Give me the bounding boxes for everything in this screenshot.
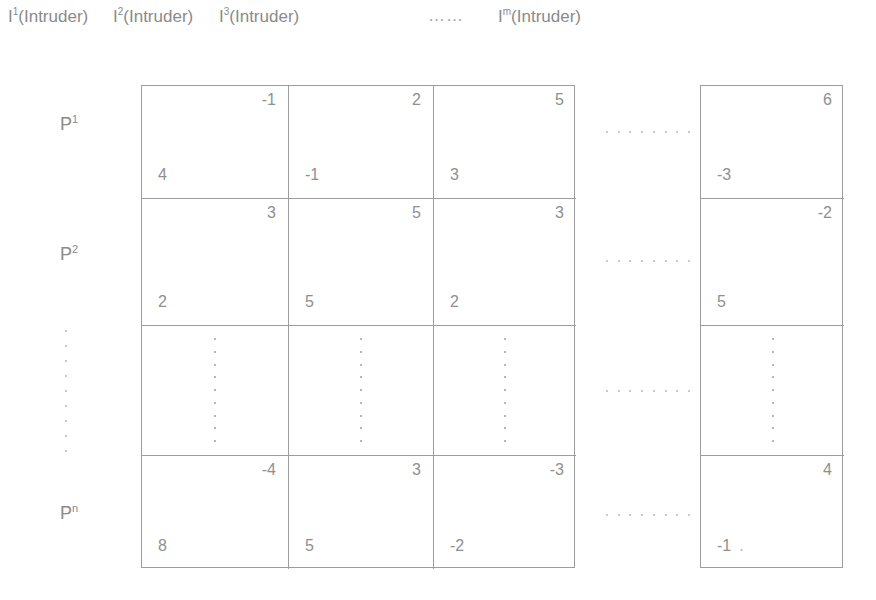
cell-value-bottom-left: 5 (717, 293, 726, 311)
row-1-horizontal-ellipsis (606, 130, 690, 134)
cell-value-top-right: 3 (555, 204, 564, 222)
dot (772, 351, 774, 353)
dot (214, 415, 216, 417)
row-label-superscript-1: 1 (72, 113, 78, 125)
cell-value-bottom-left: -2 (450, 537, 464, 555)
dot (688, 514, 690, 516)
dot (653, 131, 655, 133)
cell-value-top-right: 4 (823, 461, 832, 479)
dot (65, 375, 67, 377)
dot (772, 427, 774, 429)
dot (65, 405, 67, 407)
cell-value-top-right: 5 (412, 204, 421, 222)
column-header-label-2: (Intruder) (123, 7, 193, 26)
column-header-label-m: (Intruder) (511, 7, 581, 26)
table-cell-r1c2: 2 -1 (289, 86, 434, 199)
table-cell-r2c2: 5 5 (289, 199, 434, 326)
row-label-p2: P2 (60, 243, 78, 265)
dot (618, 514, 620, 516)
dot (360, 364, 362, 366)
cell-value-top-right: 3 (412, 461, 421, 479)
cell-value-top-right: -1 (262, 91, 276, 109)
table-cell-r4c1: -4 8 (142, 456, 289, 569)
dot (504, 376, 506, 378)
dot (606, 390, 608, 392)
dot (360, 351, 362, 353)
cell-value-bottom-left: 4 (158, 166, 167, 184)
dot (665, 390, 667, 392)
dot (618, 390, 620, 392)
cell-value-bottom-left: -3 (717, 166, 731, 184)
dot (676, 514, 678, 516)
dot (65, 345, 67, 347)
dot (629, 390, 631, 392)
dot (618, 131, 620, 133)
dot (504, 389, 506, 391)
table-cell-r1cm: 6 -3 (701, 86, 844, 199)
payoff-matrix-main-block: -1 4 2 -1 5 3 3 2 5 5 3 2 (141, 85, 575, 568)
cell-value-bottom-left: 5 (305, 293, 314, 311)
dot (504, 338, 506, 340)
dot (65, 435, 67, 437)
dot (504, 351, 506, 353)
table-cell-r2c1: 3 2 (142, 199, 289, 326)
row-label-superscript-2: 2 (72, 243, 78, 255)
dot (214, 364, 216, 366)
row-label-superscript-3: n (72, 502, 78, 514)
table-cell-r1c1: -1 4 (142, 86, 289, 199)
table-cell-r4c3: -3 -2 (434, 456, 576, 569)
dot (641, 390, 643, 392)
row-label-vertical-ellipsis (64, 330, 68, 452)
dot (214, 389, 216, 391)
cell-vertical-ellipsis (503, 338, 507, 442)
dot (653, 390, 655, 392)
dot (772, 376, 774, 378)
dot (676, 390, 678, 392)
dot (360, 415, 362, 417)
cell-value-bottom-left: 8 (158, 537, 167, 555)
cell-value-bottom-left: 2 (450, 293, 459, 311)
dot (629, 131, 631, 133)
cell-value-bottom-left: -1. (717, 537, 744, 555)
column-header-intruder-2: I2(Intruder) (113, 6, 193, 28)
dot (688, 260, 690, 262)
dot (65, 360, 67, 362)
table-cell-r2c3: 3 2 (434, 199, 576, 326)
cell-value-top-right: -3 (550, 461, 564, 479)
dot (688, 131, 690, 133)
cell-value-top-right: 6 (823, 91, 832, 109)
dot (606, 131, 608, 133)
column-header-label-3: (Intruder) (229, 7, 299, 26)
dot (641, 514, 643, 516)
column-header-ellipsis: …… (428, 6, 464, 26)
cell-vertical-ellipsis (213, 338, 217, 442)
dot (676, 131, 678, 133)
table-cell-r3cm-ellipsis (701, 326, 844, 456)
dot (641, 260, 643, 262)
dot (65, 450, 67, 452)
dot (504, 427, 506, 429)
dot (772, 364, 774, 366)
dot (65, 420, 67, 422)
column-header-intruder-1: I1(Intruder) (8, 6, 88, 28)
dot (360, 376, 362, 378)
table-cell-r3c2-ellipsis (289, 326, 434, 456)
dot (676, 260, 678, 262)
cell-value-bottom-left: -1 (305, 166, 319, 184)
dot (360, 427, 362, 429)
dot (772, 415, 774, 417)
cell-value-top-right: -2 (818, 204, 832, 222)
dot (360, 402, 362, 404)
row-label-symbol-1: P (60, 114, 72, 134)
cell-value-bottom-left: 3 (450, 166, 459, 184)
dot (360, 338, 362, 340)
dot (65, 390, 67, 392)
cell-value-top-right: 2 (412, 91, 421, 109)
table-cell-r2cm: -2 5 (701, 199, 844, 326)
dot (360, 389, 362, 391)
dot (641, 131, 643, 133)
table-cell-r1c3: 5 3 (434, 86, 576, 199)
dot (214, 440, 216, 442)
row-label-p1: P1 (60, 113, 78, 135)
row-4-horizontal-ellipsis (606, 513, 690, 517)
